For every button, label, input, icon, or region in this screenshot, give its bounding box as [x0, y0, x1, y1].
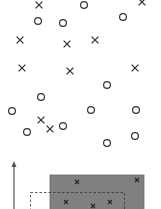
circle-marker	[133, 107, 140, 114]
circle-marker	[132, 133, 139, 140]
circle-marker	[88, 107, 95, 114]
circle-marker	[38, 94, 45, 101]
axis-arrow-head	[12, 161, 17, 167]
circle-marker	[120, 14, 127, 21]
circle-marker	[104, 82, 111, 89]
cross-marker	[132, 65, 139, 72]
cross-marker	[19, 65, 26, 72]
circle-marker	[24, 129, 31, 136]
circle-marker	[9, 108, 16, 115]
circle-marker	[60, 20, 67, 27]
cross-marker	[92, 37, 99, 44]
cross-marker	[139, 0, 146, 5]
cross-marker	[17, 37, 24, 44]
circle-marker	[104, 140, 111, 147]
cross-marker	[67, 68, 74, 75]
circle-marker	[81, 2, 88, 9]
cross-marker	[36, 2, 43, 9]
marker-group	[9, 0, 146, 146]
cross-marker	[38, 117, 45, 124]
circle-marker	[35, 18, 42, 25]
diagram	[0, 0, 161, 209]
circle-marker	[60, 123, 67, 130]
cross-marker	[64, 41, 71, 48]
cross-marker	[47, 126, 54, 133]
